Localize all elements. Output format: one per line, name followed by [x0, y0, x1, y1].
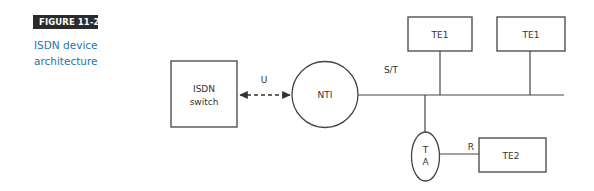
- isdn-architecture-diagram: ISDN switch U NTI S/T TE1 TE1 T A R: [0, 0, 594, 191]
- te1-label-1: TE1: [431, 30, 449, 40]
- te2-label: TE2: [502, 151, 520, 161]
- ta-label-line2: A: [422, 157, 429, 167]
- ta-label-line1: T: [422, 145, 429, 155]
- te1-node-2: TE1: [497, 17, 565, 95]
- isdn-switch-label-line2: switch: [190, 97, 219, 107]
- ta-node: T A: [412, 95, 440, 181]
- u-interface-link: U: [240, 75, 290, 95]
- u-interface-label: U: [261, 75, 268, 85]
- st-bus: S/T: [358, 65, 564, 95]
- te2-node: TE2: [479, 138, 546, 172]
- te1-node-1: TE1: [408, 17, 472, 95]
- isdn-switch-label-line1: ISDN: [193, 84, 215, 94]
- isdn-switch-node: ISDN switch: [171, 61, 237, 127]
- st-interface-label: S/T: [384, 65, 399, 75]
- te1-label-2: TE1: [522, 30, 540, 40]
- nti-node: NTI: [292, 62, 358, 128]
- nti-label: NTI: [318, 90, 333, 100]
- r-interface-label: R: [468, 142, 474, 152]
- r-interface-link: R: [440, 142, 479, 154]
